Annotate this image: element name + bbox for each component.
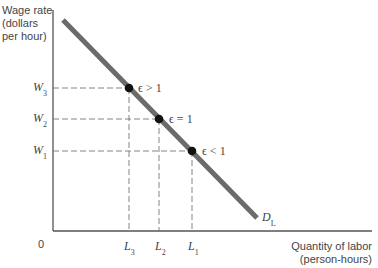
quantity-subscript: 2: [162, 248, 166, 257]
quantity-subscript: 1: [195, 248, 199, 257]
origin-label: 0: [38, 238, 44, 251]
quantity-symbol: L: [124, 239, 131, 253]
quantity-label-l3: L3: [124, 240, 135, 257]
wage-label-w2: W2: [33, 112, 47, 129]
elasticity-label-inelastic: ϵ < 1: [202, 145, 226, 158]
point-inelastic: [188, 147, 197, 156]
y-axis-label-line: per hour): [2, 30, 52, 43]
elasticity-label-elastic: ϵ > 1: [138, 82, 162, 95]
wage-subscript: 3: [43, 89, 47, 98]
demand-subscript: L: [271, 219, 276, 228]
quantity-label-l2: L2: [155, 240, 166, 257]
point-elastic: [125, 84, 134, 93]
quantity-symbol: L: [188, 239, 195, 253]
y-axis-label-line: Wage rate: [2, 4, 52, 17]
x-axis-label: Quantity of labor (person-hours): [291, 240, 372, 266]
point-unit-elastic: [155, 115, 164, 124]
wage-symbol: W: [33, 111, 43, 125]
wage-subscript: 1: [43, 152, 47, 161]
elasticity-label-unit: ϵ = 1: [169, 113, 193, 126]
y-axis-label: Wage rate (dollars per hour): [2, 4, 52, 43]
wage-symbol: W: [33, 143, 43, 157]
x-axis-label-line: Quantity of labor: [291, 240, 372, 253]
wage-label-w3: W3: [33, 81, 47, 98]
wage-label-w1: W1: [33, 144, 47, 161]
diagram-canvas: [0, 0, 378, 268]
quantity-symbol: L: [155, 239, 162, 253]
x-axis-label-line: (person-hours): [291, 253, 372, 266]
quantity-label-l1: L1: [188, 240, 199, 257]
demand-symbol: D: [262, 210, 271, 224]
demand-curve-label: DL: [262, 211, 276, 228]
wage-symbol: W: [33, 80, 43, 94]
quantity-subscript: 3: [131, 248, 135, 257]
wage-subscript: 2: [43, 120, 47, 129]
y-axis-label-line: (dollars: [2, 17, 52, 30]
